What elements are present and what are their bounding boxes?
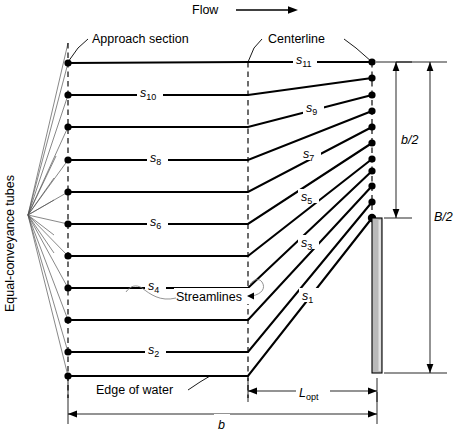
centerline-leader-left bbox=[248, 39, 262, 62]
fan-ray-4 bbox=[28, 215, 68, 288]
fan-ray-inner-a bbox=[28, 178, 54, 215]
node-dot-right-8 bbox=[368, 107, 375, 114]
B-half-arrow-head-bottom bbox=[427, 364, 434, 373]
node-dot-right-11 bbox=[368, 58, 375, 65]
B-half-label: B/2 bbox=[434, 210, 453, 224]
node-dot-right-2 bbox=[368, 198, 375, 205]
edge-of-water-label: Edge of water bbox=[96, 383, 173, 397]
fan-ray-1 bbox=[28, 215, 68, 376]
streamline-paths bbox=[68, 62, 372, 376]
flow-label: Flow bbox=[192, 3, 219, 17]
node-dot-right-4 bbox=[368, 167, 375, 174]
flow-arrow-head bbox=[288, 6, 298, 14]
node-dot-right-6 bbox=[368, 139, 375, 146]
streamline-path-s11 bbox=[68, 62, 372, 63]
B-half-arrow-head-top bbox=[427, 62, 434, 71]
dimension-b-half: b/2 bbox=[376, 62, 423, 218]
b-half-label: b/2 bbox=[401, 133, 418, 147]
b-half-arrow-head-top bbox=[393, 62, 400, 71]
dimension-B-half: B/2 bbox=[384, 62, 458, 373]
equal-conveyance-fan bbox=[28, 43, 68, 376]
node-dot-left-11 bbox=[64, 59, 71, 66]
streamline-labels: s11 s10 s9 s8 s7 s6 s5 s4 s3 s2 s1 bbox=[137, 52, 324, 359]
edge-of-water-leader bbox=[188, 376, 210, 390]
node-dot-right-9 bbox=[368, 91, 375, 98]
approach-section-callout: Approach section bbox=[68, 32, 189, 62]
node-dot-left-7 bbox=[64, 188, 71, 195]
node-dot-right-7 bbox=[368, 123, 375, 130]
b-half-arrow-head-bottom bbox=[393, 209, 400, 218]
streamline-path-s6 bbox=[68, 143, 372, 224]
equal-conveyance-tube-diagram: Flow Approach section Centerline Equal-c… bbox=[0, 0, 461, 441]
streamline-path-s10 bbox=[68, 78, 372, 95]
equal-conveyance-tubes-label: Equal-conveyance tubes bbox=[3, 175, 17, 312]
approach-section-label: Approach section bbox=[92, 32, 189, 46]
node-dot-left-4 bbox=[64, 284, 71, 291]
streamline-path-s9 bbox=[68, 95, 372, 127]
fan-ray-10 bbox=[28, 95, 68, 215]
dimension-L-opt: Lopt bbox=[248, 378, 377, 402]
flow-annotation: Flow bbox=[192, 3, 298, 17]
fan-ray-11 bbox=[28, 63, 68, 215]
node-dot-left-9 bbox=[64, 123, 71, 130]
centerline-label: Centerline bbox=[268, 32, 325, 46]
b-arrow-head-left bbox=[68, 411, 77, 418]
fan-ray-inner-d bbox=[28, 215, 54, 253]
figure-canvas: Flow Approach section Centerline Equal-c… bbox=[0, 0, 461, 441]
streamline-path-s8 bbox=[68, 111, 372, 160]
b-label: b bbox=[218, 418, 225, 432]
node-dot-left-3 bbox=[64, 316, 71, 323]
node-dot-right-5 bbox=[368, 155, 375, 162]
centerline-leader-right bbox=[344, 39, 372, 62]
node-dot-left-8 bbox=[64, 156, 71, 163]
b-arrow-head-right bbox=[368, 411, 377, 418]
node-dot-right-3 bbox=[368, 182, 375, 189]
node-dot-right-10 bbox=[368, 74, 375, 81]
L-opt-arrow-head-right bbox=[368, 388, 377, 395]
node-dot-left-5 bbox=[64, 252, 71, 259]
L-opt-arrow-head-left bbox=[248, 388, 257, 395]
streamlines-label: Streamlines bbox=[176, 290, 242, 304]
streamlines-leader-right bbox=[250, 280, 264, 296]
streamline-path-s4 bbox=[68, 171, 372, 288]
edge-of-water-callout: Edge of water bbox=[96, 376, 210, 397]
abutment-bar bbox=[372, 218, 382, 373]
approach-section-leader bbox=[68, 39, 88, 62]
node-dot-left-10 bbox=[64, 91, 71, 98]
abutment-highlight bbox=[379, 220, 381, 371]
node-dot-left-2 bbox=[64, 348, 71, 355]
fan-ray-top-outer bbox=[28, 43, 68, 215]
node-dot-left-6 bbox=[64, 220, 71, 227]
fan-ray-inner-e bbox=[28, 156, 56, 215]
